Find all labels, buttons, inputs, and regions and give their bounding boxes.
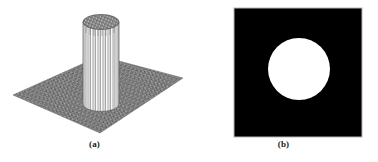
white-disk [268, 38, 330, 100]
surface-plot-a [0, 0, 189, 140]
panel-b: (b) [189, 0, 378, 162]
caption-b: (b) [189, 138, 378, 150]
binary-image-svg [189, 0, 378, 140]
panel-a: (a) [0, 0, 189, 162]
cylinder-column [83, 20, 119, 112]
binary-image-b [189, 0, 378, 140]
figure-container: (a) (b) [0, 0, 378, 162]
caption-a: (a) [0, 138, 189, 150]
surface-plot-svg [0, 0, 189, 140]
